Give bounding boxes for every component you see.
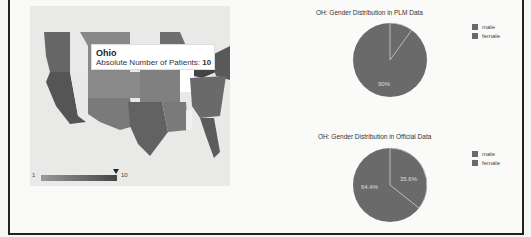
- map-tooltip: Ohio Absolute Number of Patients: 10: [91, 44, 215, 70]
- color-legend-max: 10: [121, 172, 128, 178]
- legend-swatch-icon: [472, 33, 478, 39]
- legend-item-male: male: [472, 149, 500, 158]
- official-pie-female-label: 64.4%: [361, 184, 379, 190]
- color-legend-min: 1: [32, 172, 35, 178]
- state-southeast: [190, 76, 226, 118]
- tooltip-metric-label: Absolute Number of Patients:: [96, 58, 200, 67]
- state-central: [88, 72, 140, 98]
- us-choropleth-map[interactable]: [30, 6, 230, 186]
- tooltip-metric-value: 10: [202, 58, 211, 67]
- legend-item-female: female: [472, 31, 500, 40]
- map-shapes: [30, 6, 230, 186]
- state-southwest: [88, 98, 134, 130]
- plm-pie-title: OH: Gender Distribution in PLM Data: [316, 9, 423, 16]
- legend-swatch-icon: [472, 24, 478, 30]
- legend-item-male: male: [472, 22, 500, 31]
- legend-swatch-icon: [472, 160, 478, 166]
- legend-item-female: female: [472, 158, 500, 167]
- state-midwest: [140, 66, 180, 102]
- plm-pie-chart[interactable]: 90%: [352, 22, 428, 98]
- plm-pie-legend: male female: [472, 22, 500, 40]
- tooltip-metric: Absolute Number of Patients: 10: [96, 58, 210, 68]
- tooltip-state-name: Ohio: [96, 48, 210, 58]
- official-pie-legend: male female: [472, 149, 500, 167]
- state-washington-oregon: [44, 32, 70, 72]
- legend-marker-icon: [113, 169, 119, 174]
- color-legend-bar: [41, 175, 117, 181]
- official-pie-title: OH: Gender Distribution in Official Data: [318, 133, 431, 140]
- plm-pie-label: 90%: [378, 81, 391, 87]
- official-pie-male-label: 35.6%: [400, 176, 418, 182]
- legend-swatch-icon: [472, 151, 478, 157]
- state-florida: [200, 118, 220, 158]
- official-pie-chart[interactable]: 35.6% 64.4%: [352, 147, 428, 223]
- state-texas: [128, 102, 168, 156]
- state-mississippi: [186, 110, 192, 130]
